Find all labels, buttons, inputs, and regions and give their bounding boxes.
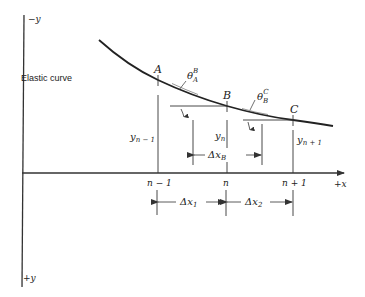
theta-b-c-label: θBC xyxy=(257,88,269,105)
pos-y-label: +y xyxy=(23,273,37,283)
y-label-n-minus-1: yn − 1 xyxy=(129,131,155,144)
x-tick-label-n: n xyxy=(223,178,229,188)
point-label-a: A xyxy=(153,63,162,76)
x-tick-label-n-plus-1: n + 1 xyxy=(282,178,307,188)
point-labels: A B C xyxy=(153,63,299,116)
x-axis: +x n − 1 n n + 1 xyxy=(22,173,347,189)
elastic-curve: Elastic curve xyxy=(21,40,333,126)
delta-x2-label: Δx2 xyxy=(244,196,263,209)
elastic-curve-label: Elastic curve xyxy=(21,73,72,83)
delta-xb-label: ΔxB xyxy=(207,149,226,162)
elastic-curve-diagram: −y +y +x n − 1 n n + 1 Elastic curve A B… xyxy=(0,0,365,297)
delta-x1-x2-dimensions: Δx1 Δx2 xyxy=(157,190,293,216)
theta-a-b-label: θAB xyxy=(187,67,198,84)
point-label-c: C xyxy=(290,103,299,116)
y-axis: −y +y xyxy=(22,14,42,287)
x-tick-label-n-minus-1: n − 1 xyxy=(147,178,172,188)
y-label-n-plus-1: yn + 1 xyxy=(296,134,322,147)
point-label-b: B xyxy=(222,89,231,102)
y-label-n: yn xyxy=(214,130,226,143)
neg-y-label: −y xyxy=(28,14,42,24)
delta-x1-label: Δx1 xyxy=(179,196,197,209)
delta-xb-dimension: ΔxB xyxy=(194,149,261,162)
pos-x-label: +x xyxy=(334,179,347,189)
slope-references xyxy=(170,84,293,166)
